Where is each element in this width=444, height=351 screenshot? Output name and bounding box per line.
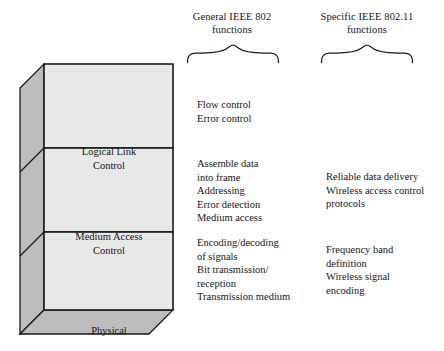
curly-brace-down-icon bbox=[320, 44, 414, 68]
layer-face-logical-link-control bbox=[44, 64, 173, 148]
functions-mac-general: Assemble datainto frameAddressingError d… bbox=[197, 157, 319, 225]
fn-phy-specific-line-3: Wireless signal bbox=[326, 270, 438, 284]
column-heading-general-line2: functions bbox=[178, 23, 286, 36]
layer-label-phy-line1: Physical bbox=[91, 325, 127, 336]
layer-label-mac-line1: Medium Access bbox=[75, 231, 142, 242]
fn-phy-general-line-4: reception bbox=[197, 277, 327, 291]
fn-mac-general-line-3: Addressing bbox=[197, 184, 319, 198]
column-heading-specific: Specific IEEE 802.11 functions bbox=[308, 10, 426, 36]
fn-llc-general-line-2: Error control bbox=[197, 112, 317, 126]
fn-mac-general-line-5: Medium access bbox=[197, 211, 319, 225]
layer-label-llc-line2: Control bbox=[93, 160, 125, 171]
fn-mac-specific-line-1: Reliable data delivery bbox=[326, 170, 442, 184]
fn-mac-general-line-1: Assemble data bbox=[197, 157, 319, 171]
protocol-stack-3d: Logical Link Control Medium Access Contr… bbox=[0, 52, 200, 342]
fn-phy-specific-line-1: Frequency band bbox=[326, 243, 438, 257]
column-heading-specific-line2: functions bbox=[308, 23, 426, 36]
functions-phy-general: Encoding/decodingof signalsBit transmiss… bbox=[197, 236, 327, 304]
fn-phy-general-line-5: Transmission medium bbox=[197, 290, 327, 304]
fn-phy-specific-line-2: definition bbox=[326, 257, 438, 271]
fn-phy-general-line-2: of signals bbox=[197, 250, 327, 264]
fn-llc-general-line-1: Flow control bbox=[197, 98, 317, 112]
fn-mac-specific-line-3: protocols bbox=[326, 197, 442, 211]
column-heading-specific-line1: Specific IEEE 802.11 bbox=[308, 10, 426, 23]
fn-mac-specific-line-2: Wireless access control bbox=[326, 184, 442, 198]
protocol-stack-svg bbox=[0, 52, 200, 342]
stack-side-face bbox=[20, 64, 44, 334]
layer-label-medium-access-control: Medium Access Control bbox=[45, 230, 173, 257]
curly-brace-down-icon bbox=[186, 44, 280, 68]
functions-llc-general: Flow controlError control bbox=[197, 98, 317, 125]
functions-phy-specific: Frequency banddefinitionWireless signale… bbox=[326, 243, 438, 297]
layer-label-logical-link-control: Logical Link Control bbox=[45, 145, 173, 172]
layer-label-physical: Physical bbox=[45, 324, 173, 338]
fn-phy-general-line-1: Encoding/decoding bbox=[197, 236, 327, 250]
column-heading-general: General IEEE 802 functions bbox=[178, 10, 286, 36]
fn-phy-specific-line-4: encoding bbox=[326, 284, 438, 298]
layer-label-llc-line1: Logical Link bbox=[82, 146, 137, 157]
fn-mac-general-line-4: Error detection bbox=[197, 198, 319, 212]
fn-phy-general-line-3: Bit transmission/ bbox=[197, 263, 327, 277]
fn-mac-general-line-2: into frame bbox=[197, 171, 319, 185]
column-heading-general-line1: General IEEE 802 bbox=[178, 10, 286, 23]
layer-label-mac-line2: Control bbox=[93, 245, 125, 256]
figure-canvas: General IEEE 802 functions Specific IEEE… bbox=[0, 0, 444, 351]
functions-mac-specific: Reliable data deliveryWireless access co… bbox=[326, 170, 442, 211]
